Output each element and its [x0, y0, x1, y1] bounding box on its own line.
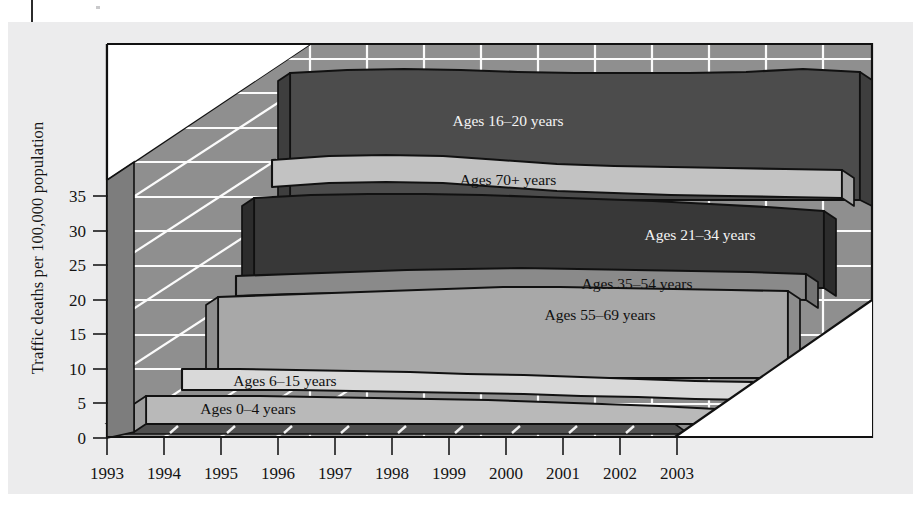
x-tick-label-2002: 2002 [603, 464, 637, 483]
x-tick-label-2000: 2000 [489, 464, 523, 483]
series-label-ages-21-34: Ages 21–34 years [644, 226, 755, 243]
x-tick-label-1995: 1995 [204, 464, 238, 483]
chart-left-wall [107, 162, 134, 438]
x-tick-marks [107, 438, 677, 455]
x-tick-label-1998: 1998 [375, 464, 409, 483]
x-tick-label-1996: 1996 [261, 464, 295, 483]
x-tick-label-2003: 2003 [660, 464, 694, 483]
series-label-ages-0-4: Ages 0–4 years [200, 400, 296, 417]
chart-figure: Ages 16–20 years Ages 70+ years Ages 21–… [0, 0, 921, 509]
y-axis-title: Traffic deaths per 100,000 population [28, 122, 47, 375]
y-tick-label-30: 30 [69, 222, 86, 241]
series-label-ages-6-15: Ages 6–15 years [233, 372, 336, 389]
x-tick-label-1999: 1999 [432, 464, 466, 483]
series-label-ages-55-69: Ages 55–69 years [544, 306, 655, 323]
y-tick-label-15: 15 [69, 325, 86, 344]
x-tick-label-1993: 1993 [90, 464, 124, 483]
series-label-ages-70-plus: Ages 70+ years [460, 171, 557, 188]
x-tick-label-1994: 1994 [147, 464, 182, 483]
x-tick-label-2001: 2001 [546, 464, 580, 483]
chart-plot: Ages 16–20 years Ages 70+ years Ages 21–… [0, 0, 921, 509]
series-label-ages-16-20: Ages 16–20 years [452, 112, 563, 129]
y-axis: 35 30 25 20 15 10 5 0 Traffic deaths per… [28, 122, 108, 448]
y-tick-label-10: 10 [69, 360, 86, 379]
y-tick-label-0: 0 [78, 429, 87, 448]
series-label-ages-35-54: Ages 35–54 years [581, 275, 692, 292]
y-tick-label-35: 35 [69, 187, 86, 206]
y-tick-label-25: 25 [69, 256, 86, 275]
y-tick-label-5: 5 [78, 394, 87, 413]
y-tick-label-20: 20 [69, 291, 86, 310]
y-tick-marks [93, 196, 108, 438]
x-axis: 1993 1994 1995 1996 1997 1998 1999 2000 … [90, 438, 694, 483]
x-tick-label-1997: 1997 [318, 464, 353, 483]
